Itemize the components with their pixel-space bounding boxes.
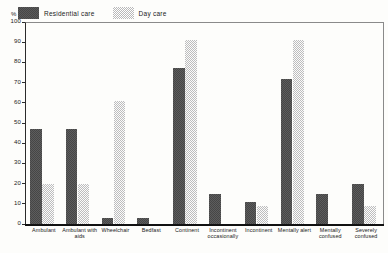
bar-residential-care	[316, 194, 328, 224]
legend-label-residential-care: Residential care	[44, 10, 95, 17]
bar-residential-care	[66, 129, 78, 224]
bar-residential-care	[137, 218, 149, 224]
y-tick-30: 30	[0, 159, 25, 167]
y-tick-20: 20	[0, 180, 25, 188]
x-axis-labels: AmbulantAmbulant with aidsWheelchairBedf…	[26, 227, 384, 253]
bar-residential-care	[102, 218, 114, 224]
y-axis-unit-label: %	[11, 11, 16, 17]
bar-group	[277, 22, 313, 224]
bar-residential-care	[245, 202, 257, 224]
bar-day-care	[78, 184, 90, 224]
bar-group	[26, 22, 62, 224]
y-tick-40: 40	[0, 139, 25, 147]
bar-residential-care	[281, 79, 293, 224]
y-tick-70: 70	[0, 79, 25, 87]
bar-day-care	[364, 206, 376, 224]
bar-day-care	[42, 184, 54, 224]
bar-day-care	[114, 101, 126, 224]
bar-group	[98, 22, 134, 224]
y-tick-0: 0	[0, 220, 25, 228]
x-label-severely-confused: Severely confused	[345, 227, 387, 240]
legend-label-day-care: Day care	[139, 10, 167, 17]
y-tick-100: 100	[0, 18, 25, 26]
bar-group	[133, 22, 169, 224]
chart-legend: Residential care Day care	[18, 5, 185, 21]
y-tick-10: 10	[0, 200, 25, 208]
bar-residential-care	[352, 184, 364, 224]
bar-group	[241, 22, 277, 224]
legend-item-residential-care: Residential care	[18, 7, 95, 19]
legend-item-day-care: Day care	[113, 7, 167, 19]
bar-day-care	[257, 206, 269, 224]
bar-chart: Residential care Day care % 010203040506…	[0, 0, 388, 253]
bar-day-care	[293, 40, 305, 224]
y-tick-90: 90	[0, 38, 25, 46]
bar-group	[205, 22, 241, 224]
light-checker-swatch-icon	[113, 7, 134, 19]
y-tick-50: 50	[0, 119, 25, 127]
y-tick-80: 80	[0, 58, 25, 66]
x-axis-baseline	[25, 224, 384, 226]
bar-group	[348, 22, 384, 224]
bar-group	[169, 22, 205, 224]
bar-residential-care	[209, 194, 221, 224]
bar-day-care	[185, 40, 197, 224]
y-axis: 0102030405060708090100	[0, 22, 25, 225]
bar-residential-care	[30, 129, 42, 224]
bar-group	[62, 22, 98, 224]
bars-layer	[26, 22, 384, 224]
bar-residential-care	[173, 68, 185, 224]
bar-group	[312, 22, 348, 224]
y-tick-60: 60	[0, 99, 25, 107]
